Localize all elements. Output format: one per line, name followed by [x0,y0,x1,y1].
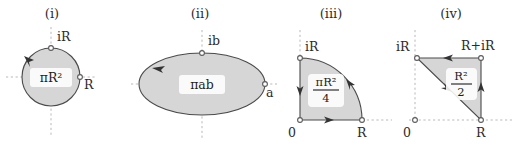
panel-ii-label-top: ib [208,33,220,48]
panel-iii-marker-right [360,118,365,123]
panel-iv-marker-top-left [415,56,420,61]
panel-i-label-right: R [84,77,94,92]
complex-contour-figure: (i) iR R πR² (ii) [0,0,519,150]
panel-ii-marker-top [200,51,205,56]
panel-iv-marker-bottom-right [479,118,484,123]
panel-iv-area-denominator: 2 [457,85,464,99]
panel-iv-title: (iv) [440,6,462,21]
panel-iii-area-numerator: πR² [316,75,337,89]
panel-iv-label-origin: 0 [403,125,411,140]
panel-iv-label-top-left: iR [396,39,410,54]
panel-iii-marker-top [298,56,303,61]
panel-iv-label-bottom-right: R [476,125,486,140]
panel-ii-label-right: a [266,85,274,100]
panel-ii: (ii) ib a πab [131,6,277,141]
panel-i: (i) iR R πR² [6,6,96,138]
panel-i-marker-right [78,75,83,80]
panel-i-label-top: iR [57,29,71,44]
panel-iii-title: (iii) [320,6,343,21]
panel-iii-area-denominator: 4 [322,91,329,105]
panel-ii-area-label: πab [190,77,214,92]
panel-i-title: (i) [45,6,59,21]
panel-iv-label-top-right: R+iR [461,38,495,53]
panel-iii-marker-origin [298,118,303,123]
panel-iii-label-top: iR [305,39,319,54]
panel-i-area-label: πR² [40,70,63,85]
panel-iii: (iii) iR 0 R πR² [288,6,392,141]
panel-i-marker-top [49,46,54,51]
panel-iv-marker-origin [413,118,418,123]
panel-iv-marker-top-right [479,56,484,61]
panel-iv-area-numerator: R² [454,69,467,83]
panel-iii-label-origin: 0 [288,125,296,140]
panel-iii-label-right: R [357,125,367,140]
panel-ii-title: (ii) [191,6,209,21]
panel-iv: (iv) iR R+iR 0 R [396,6,513,141]
